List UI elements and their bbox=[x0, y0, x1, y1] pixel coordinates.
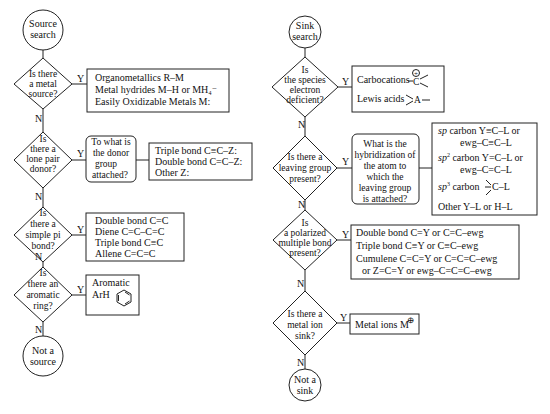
svg-text:attached?: attached? bbox=[92, 170, 128, 180]
svg-text:Not a: Not a bbox=[32, 345, 55, 356]
svg-text:ewg–C≡C–L: ewg–C≡C–L bbox=[460, 137, 512, 148]
svg-text:Carbocations: Carbocations bbox=[357, 74, 410, 85]
svg-text:a polarized: a polarized bbox=[284, 228, 326, 238]
no-label: N bbox=[297, 278, 304, 289]
result-electron-deficient: Carbocations Lewis acids C + A bbox=[352, 66, 444, 112]
svg-text:a metal: a metal bbox=[29, 79, 57, 89]
source-search-flowchart: Source search Is there a metal source? Y… bbox=[14, 10, 252, 376]
svg-text:ewg–C=C–L: ewg–C=C–L bbox=[460, 164, 512, 175]
svg-text:which the: which the bbox=[366, 172, 403, 182]
svg-text:Is there: Is there bbox=[29, 69, 57, 79]
svg-text:source?: source? bbox=[28, 89, 57, 99]
svg-text:Easily Oxidizable Metals M:: Easily Oxidizable Metals M: bbox=[95, 96, 210, 107]
decision-simple-pi: Is there a simple pi bond? bbox=[14, 207, 72, 262]
yes-label: Y bbox=[77, 148, 84, 159]
svg-text:sp3 carbon: sp3 carbon bbox=[438, 181, 480, 192]
decision-aromatic: Is there an aromatic ring? bbox=[14, 267, 72, 322]
svg-text:Allene C=C=C: Allene C=C=C bbox=[95, 248, 156, 259]
not-a-source-end: Not a source bbox=[23, 336, 63, 376]
svg-text:electron: electron bbox=[290, 85, 321, 95]
svg-text:Is there a: Is there a bbox=[288, 309, 324, 319]
svg-text:bond?: bond? bbox=[31, 241, 54, 251]
sink-search-flowchart: Sink search Is the species electron defi… bbox=[272, 16, 537, 401]
svg-text:sp2 carbon Y=C–L or: sp2 carbon Y=C–L or bbox=[438, 152, 524, 163]
svg-text:source: source bbox=[30, 356, 57, 367]
svg-text:multiple bond: multiple bond bbox=[278, 238, 331, 248]
svg-text:the atom to: the atom to bbox=[364, 161, 407, 171]
svg-text:deficient?: deficient? bbox=[286, 95, 323, 105]
svg-text:ring?: ring? bbox=[33, 301, 53, 311]
yes-label: Y bbox=[340, 312, 347, 323]
svg-text:Aromatic: Aromatic bbox=[92, 277, 130, 288]
svg-text:To what is: To what is bbox=[91, 137, 131, 147]
start-label: search bbox=[30, 29, 56, 40]
decision-metal-ion-sink: Is there a metal ion sink? bbox=[273, 291, 337, 355]
svg-text:Is: Is bbox=[302, 65, 309, 75]
svg-text:Is: Is bbox=[40, 134, 47, 144]
decision-metal-source: Is there a metal source? bbox=[14, 58, 72, 109]
svg-text:Triple bond C≡C–Z:: Triple bond C≡C–Z: bbox=[155, 145, 237, 156]
result-aromatic: Aromatic ArH bbox=[86, 275, 139, 315]
yes-label: Y bbox=[342, 76, 349, 87]
svg-text:Sink: Sink bbox=[296, 20, 314, 31]
no-label: N bbox=[35, 251, 42, 262]
svg-text:group: group bbox=[95, 159, 117, 169]
result-metal-source: Organometallics R–M Metal hydrides M–H o… bbox=[87, 69, 229, 112]
svg-text:Is there a: Is there a bbox=[288, 152, 324, 162]
svg-text:Not a: Not a bbox=[294, 374, 317, 385]
svg-text:donor?: donor? bbox=[30, 164, 56, 174]
result-simple-pi: Double bond C=C Diene C=C–C=C Triple bon… bbox=[86, 213, 184, 261]
svg-text:sp carbon Y≡C–L or: sp carbon Y≡C–L or bbox=[438, 125, 521, 136]
svg-text:or Z=C=Y or ewg–C=C=C–ewg: or Z=C=Y or ewg–C=C=C–ewg bbox=[362, 265, 492, 276]
svg-text:search: search bbox=[292, 31, 318, 42]
subquestion-donor-attached: To what is the donor group attached? bbox=[86, 136, 136, 182]
svg-text:C: C bbox=[413, 77, 419, 87]
decision-lone-pair: Is there a lone pair donor? bbox=[14, 132, 72, 188]
yes-label: Y bbox=[77, 224, 84, 235]
svg-text:C–L: C–L bbox=[492, 181, 510, 192]
svg-text:Other Z:: Other Z: bbox=[155, 167, 189, 178]
svg-text:Metal ions M: Metal ions M bbox=[355, 319, 409, 330]
source-search-start: Source search bbox=[23, 10, 63, 50]
svg-text:Lewis acids: Lewis acids bbox=[357, 93, 405, 104]
svg-text:Is: Is bbox=[302, 218, 309, 228]
not-a-sink-end: Not a sink bbox=[289, 369, 321, 401]
svg-text:present?: present? bbox=[289, 248, 321, 258]
svg-text:ArH: ArH bbox=[92, 289, 110, 300]
result-lone-pair: Triple bond C≡C–Z: Double bond C=C–Z: Ot… bbox=[149, 143, 252, 180]
yes-label: Y bbox=[77, 73, 84, 84]
yes-label: Y bbox=[342, 156, 349, 167]
svg-text:there an: there an bbox=[28, 279, 59, 289]
result-metal-ions: Metal ions M ⊕ bbox=[350, 314, 419, 334]
no-label: N bbox=[297, 357, 304, 368]
svg-text:simple pi: simple pi bbox=[25, 230, 60, 240]
svg-text:sink: sink bbox=[297, 385, 314, 396]
svg-text:metal ion: metal ion bbox=[287, 320, 323, 330]
result-leaving-group: sp carbon Y≡C–L or ewg–C≡C–L sp2 carbon … bbox=[432, 123, 537, 215]
svg-text:Is: Is bbox=[40, 268, 47, 278]
yes-label: Y bbox=[342, 229, 349, 240]
svg-text:lone pair: lone pair bbox=[26, 154, 60, 164]
no-label: N bbox=[298, 119, 305, 130]
decision-polarized-bond: Is a polarized multiple bond present? bbox=[273, 210, 337, 270]
svg-text:Diene C=C–C=C: Diene C=C–C=C bbox=[95, 226, 165, 237]
no-label: N bbox=[35, 113, 42, 124]
svg-text:Is: Is bbox=[40, 208, 47, 218]
svg-text:leaving group: leaving group bbox=[359, 183, 412, 193]
svg-text:the donor: the donor bbox=[93, 148, 130, 158]
svg-text:Triple bond C≡C: Triple bond C≡C bbox=[95, 237, 163, 248]
svg-text:What is the: What is the bbox=[363, 139, 406, 149]
svg-text:present?: present? bbox=[289, 174, 321, 184]
svg-text:sink?: sink? bbox=[295, 331, 315, 341]
svg-text:Triple bond C≡Y or C≡C–ewg: Triple bond C≡Y or C≡C–ewg bbox=[356, 240, 478, 251]
svg-text:hybridization of: hybridization of bbox=[355, 150, 417, 160]
svg-text:Double bond C=Y or C=C–ewg: Double bond C=Y or C=C–ewg bbox=[356, 227, 484, 238]
svg-text:Double bond C=C: Double bond C=C bbox=[95, 215, 169, 226]
no-label: N bbox=[35, 324, 42, 335]
no-label: N bbox=[35, 191, 42, 202]
svg-text:aromatic: aromatic bbox=[26, 290, 59, 300]
svg-text:Metal hydrides M–H or MH₄⁻: Metal hydrides M–H or MH₄⁻ bbox=[95, 84, 217, 95]
svg-text:A: A bbox=[414, 95, 421, 105]
svg-text:is attached?: is attached? bbox=[363, 194, 408, 204]
svg-text:Organometallics R–M: Organometallics R–M bbox=[95, 72, 184, 83]
